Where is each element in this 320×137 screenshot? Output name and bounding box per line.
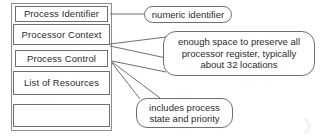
pcb-row-processor-context: Processor Context [13,24,110,45]
connector-process-control-to-includes-right [112,62,160,98]
connector-processor-context-upper [110,37,166,44]
pcb-row-label: List of Resources [24,78,99,88]
callout-process-state-priority: includes process state and priority [136,98,233,128]
corner-watermark: ❯ [292,117,314,133]
callout-text-line-1: includes process [149,102,220,113]
callout-text-line-1: enough space to preserve all [178,36,300,48]
callout-processor-register-space: enough space to preserve all processor r… [163,31,315,76]
connector-process-control-to-space [112,61,166,72]
callout-text-line-2: state and priority [149,113,219,124]
pcb-row-label: Processor Context [22,30,102,40]
callout-numeric-identifier: numeric identifier [144,6,232,23]
pcb-row-process-control: Process Control [15,50,108,67]
pcb-row-list-of-resources: List of Resources [13,71,110,95]
callout-text-block: enough space to preserve all processor r… [178,36,300,71]
connector-process-control-to-includes-left [112,63,140,99]
callout-text-line-3: about 32 locations [178,59,300,71]
pcb-row-label: Process Control [27,54,96,64]
connector-processor-context-lower [110,46,166,58]
callout-text-block: includes process state and priority [142,102,227,125]
callout-text: numeric identifier [152,9,224,21]
pcb-row-label: Process Identifier [24,9,99,19]
pcb-row-process-identifier: Process Identifier [15,6,108,22]
diagram-canvas: Process Identifier Processor Context Pro… [0,0,320,137]
callout-text-line-2: processor register, typically [178,48,300,60]
pcb-row-empty [13,104,110,127]
